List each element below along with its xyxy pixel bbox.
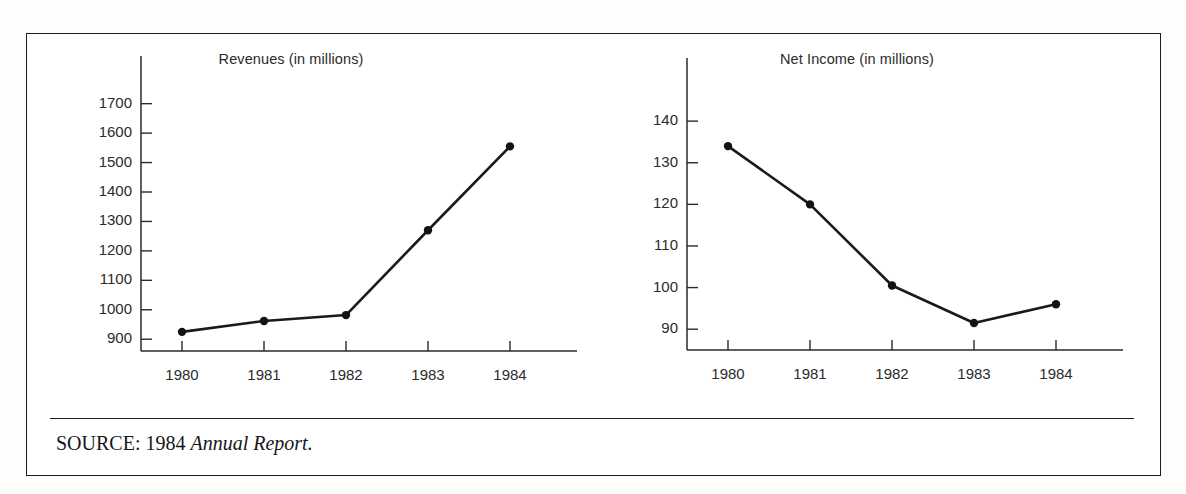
net-income-ytick-label: 90: [661, 319, 678, 336]
revenues-ytick-label: 900: [107, 329, 132, 346]
net-income-ytick-label: 140: [653, 111, 678, 128]
revenues-ytick-label: 1000: [99, 300, 132, 317]
net-income-data-point: [970, 319, 978, 327]
revenues-ytick-label: 1400: [99, 182, 132, 199]
net-income-xtick-label: 1980: [711, 365, 744, 382]
revenues-ytick-label: 1500: [99, 153, 132, 170]
net-income-ytick-label: 120: [653, 194, 678, 211]
net-income-data-point: [724, 142, 732, 150]
net-income-data-point: [1052, 300, 1060, 308]
revenues-ytick-label: 1100: [100, 270, 132, 287]
net-income-data-line: [728, 146, 1056, 323]
revenues-data-line: [182, 146, 510, 332]
revenues-data-point: [178, 328, 186, 336]
chart-panel-net-income: Net Income (in millions) 901001101201301…: [627, 34, 1157, 406]
revenues-xtick-label: 1984: [493, 366, 526, 383]
plot-area-net-income: 9010011012013014019801981198219831984: [627, 34, 1157, 406]
source-divider: [50, 418, 1134, 419]
revenues-ytick-label: 1300: [99, 211, 132, 228]
chart-panel-revenues: Revenues (in millions) 90010001100120013…: [41, 34, 611, 406]
charts-row: Revenues (in millions) 90010001100120013…: [27, 34, 1160, 406]
plot-area-revenues: 9001000110012001300140015001600170019801…: [41, 34, 611, 406]
revenues-xtick-label: 1980: [165, 366, 198, 383]
net-income-xtick-label: 1981: [793, 365, 826, 382]
revenues-ytick-label: 1200: [99, 241, 132, 258]
source-report-title: Annual Report.: [190, 432, 312, 454]
net-income-ytick-label: 110: [654, 236, 678, 253]
net-income-xtick-label: 1984: [1039, 365, 1072, 382]
source-label: SOURCE: 1984: [56, 432, 185, 454]
net-income-ytick-label: 130: [653, 153, 678, 170]
revenues-xtick-label: 1981: [247, 366, 280, 383]
revenues-ytick-label: 1600: [99, 123, 132, 140]
revenues-ytick-label: 1700: [99, 94, 132, 111]
revenues-data-point: [506, 142, 514, 150]
revenues-xtick-label: 1982: [329, 366, 362, 383]
revenues-data-point: [260, 317, 268, 325]
net-income-xtick-label: 1982: [875, 365, 908, 382]
revenues-data-point: [424, 226, 432, 234]
figure-frame: Revenues (in millions) 90010001100120013…: [26, 33, 1161, 476]
figure-root: Revenues (in millions) 90010001100120013…: [0, 0, 1186, 494]
revenues-xtick-label: 1983: [411, 366, 444, 383]
source-note: SOURCE: 1984 Annual Report.: [56, 432, 313, 455]
net-income-data-point: [806, 200, 814, 208]
revenues-data-point: [342, 311, 350, 319]
net-income-ytick-label: 100: [653, 278, 678, 295]
net-income-data-point: [888, 281, 896, 289]
net-income-xtick-label: 1983: [957, 365, 990, 382]
